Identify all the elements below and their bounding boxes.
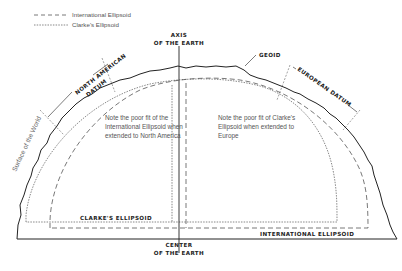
svg-text:Note the poor fit of Clarke's: Note the poor fit of Clarke's xyxy=(218,114,295,122)
surface-label: Surface of the World xyxy=(11,115,43,173)
svg-text:Europe: Europe xyxy=(218,132,239,140)
note-right: Note the poor fit of Clarke's Ellipsoid … xyxy=(218,114,295,140)
international-ellipsoid xyxy=(50,78,368,228)
legend-clarke: Clarke's Ellipsoid xyxy=(72,21,119,28)
axis-label-line1: AXIS xyxy=(171,32,187,38)
clarkes-ellipsoid xyxy=(26,79,337,222)
north-american-datum-line1: NORTH AMERICAN xyxy=(74,52,127,95)
geoid-label: GEOID xyxy=(259,52,281,58)
geoid-leader xyxy=(245,55,256,66)
svg-text:International Ellipsoid when: International Ellipsoid when xyxy=(105,123,183,131)
center-label-line1: CENTER xyxy=(166,242,193,248)
legend: International Ellipsoid Clarke's Ellipso… xyxy=(34,11,131,28)
svg-text:Note the poor fit of the: Note the poor fit of the xyxy=(105,114,169,122)
svg-text:extended to North America: extended to North America xyxy=(105,132,181,139)
legend-international: International Ellipsoid xyxy=(72,11,131,18)
international-ellipsoid-label: INTERNATIONAL ELLIPSOID xyxy=(260,231,354,237)
clarkes-ellipsoid-label: CLARKE'S ELLIPSOID xyxy=(80,215,152,221)
european-datum-label: EUROPEAN DATUM xyxy=(296,66,352,108)
center-label-line2: OF THE EARTH xyxy=(154,250,204,256)
axis-label-line2: OF THE EARTH xyxy=(154,40,204,46)
geoid-ellipsoid-diagram: International Ellipsoid Clarke's Ellipso… xyxy=(0,0,402,271)
svg-text:Ellipsoid when extended to: Ellipsoid when extended to xyxy=(218,123,294,131)
note-left: Note the poor fit of the International E… xyxy=(105,114,183,139)
